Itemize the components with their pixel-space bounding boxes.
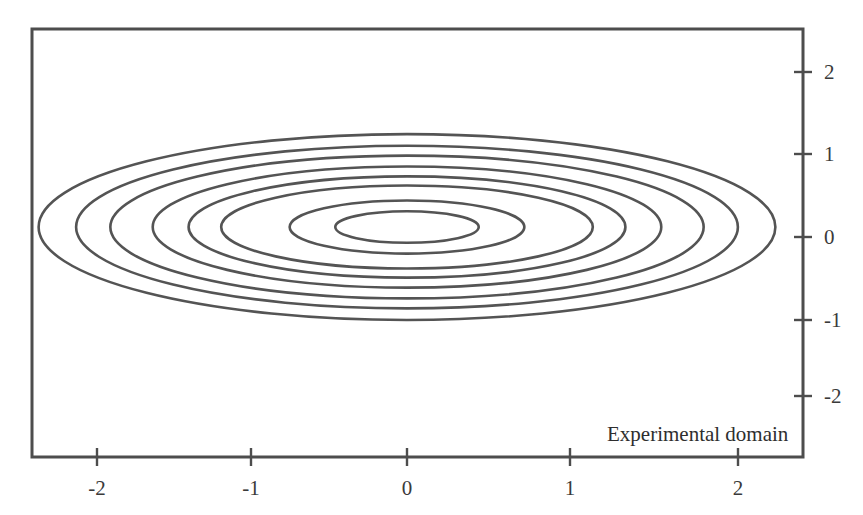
contour-ring-4: [189, 176, 626, 277]
contour-ring-3: [221, 186, 593, 269]
contour-ring-8: [39, 134, 776, 320]
contour-ring-2: [290, 200, 525, 253]
y-tick-label: -2: [824, 386, 842, 407]
y-tick-label: 1: [824, 144, 835, 165]
y-tick-label: 2: [824, 62, 835, 83]
x-tick-label: -2: [88, 478, 106, 499]
contour-ring-1: [335, 211, 478, 243]
contour-curves: [39, 134, 776, 320]
x-tick-label: 2: [733, 478, 744, 499]
contour-ring-7: [76, 146, 738, 309]
experimental-domain-label: Experimental domain: [607, 424, 788, 445]
y-tick-label: -1: [824, 310, 842, 331]
contour-plot-figure: -2-1012 210-1-2 Experimental domain: [0, 0, 863, 515]
x-tick-label: 0: [402, 478, 413, 499]
x-tick-label: -1: [242, 478, 260, 499]
y-tick-label: 0: [824, 227, 835, 248]
x-tick-label: 1: [565, 478, 576, 499]
